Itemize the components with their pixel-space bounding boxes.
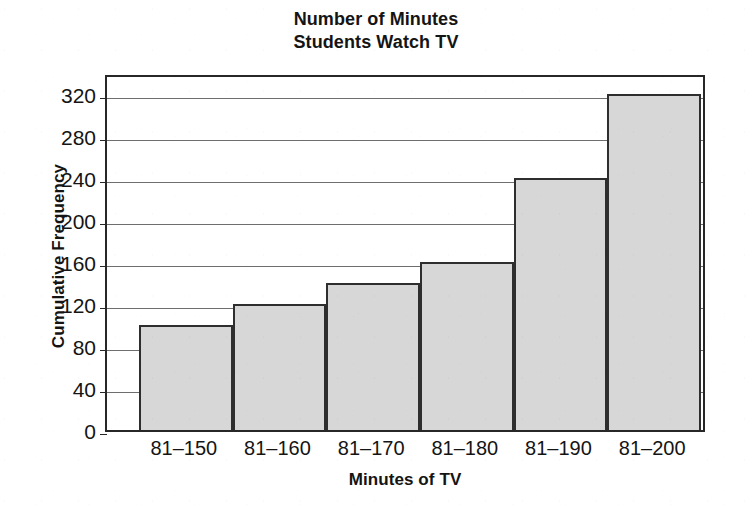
x-axis-tick-labels: 81–15081–16081–17081–18081–19081–200 (105, 436, 705, 464)
chart-title: Number of Minutes Students Watch TV (0, 8, 752, 54)
bar (514, 178, 608, 430)
y-axis-tick (100, 308, 107, 309)
plot-area (105, 75, 705, 432)
chart-title-line-1: Number of Minutes (0, 8, 752, 31)
bar (139, 325, 233, 430)
y-axis-tick-label: 0 (38, 421, 96, 442)
y-axis-tick (100, 98, 107, 99)
bar (233, 304, 327, 430)
y-axis-tick (100, 350, 107, 351)
y-axis-tick (100, 434, 107, 435)
x-axis-tick-label: 81–200 (605, 436, 699, 460)
x-axis-tick-label: 81–160 (231, 436, 325, 460)
y-axis-tick (100, 182, 107, 183)
y-axis-tick (100, 140, 107, 141)
y-axis-tick-label: 320 (38, 85, 96, 106)
y-axis-tick (100, 266, 107, 267)
x-axis-tick-label: 81–190 (512, 436, 606, 460)
y-axis-tick (100, 224, 107, 225)
plot-inner (107, 77, 703, 430)
chart-title-line-2: Students Watch TV (0, 31, 752, 54)
y-axis-tick (100, 392, 107, 393)
bar (326, 283, 420, 430)
bar (607, 94, 701, 430)
x-axis-tick-label: 81–180 (418, 436, 512, 460)
y-axis-title: Cumulative Frequency (49, 106, 69, 406)
x-axis-tick-label: 81–150 (137, 436, 231, 460)
x-axis-title: Minutes of TV (105, 470, 705, 490)
bar (420, 262, 514, 430)
x-axis-tick-label: 81–170 (324, 436, 418, 460)
